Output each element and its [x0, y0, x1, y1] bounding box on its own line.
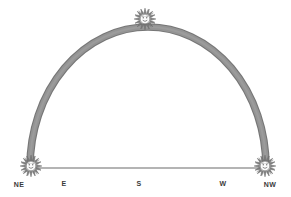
- sun-path-diagram: NE E S W NW: [0, 0, 291, 197]
- cardinal-label-e: E: [62, 180, 67, 187]
- sun-path-canvas: NE E S W NW: [0, 0, 291, 197]
- cardinal-label-s: S: [137, 180, 142, 187]
- sun-icon-sunrise: [20, 155, 42, 177]
- cardinal-label-w: W: [220, 180, 227, 187]
- sun-path-arc: [30, 27, 266, 167]
- sun-icon-zenith: [134, 8, 156, 30]
- sun-icon-sunset: [254, 155, 276, 177]
- cardinal-label-nw: NW: [264, 181, 276, 188]
- cardinal-label-ne: NE: [14, 181, 24, 188]
